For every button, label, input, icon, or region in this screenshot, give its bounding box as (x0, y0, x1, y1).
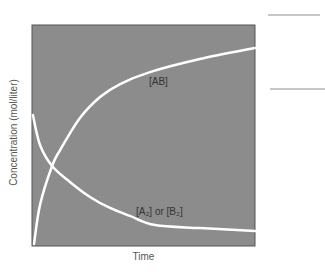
scan-artifact-top (268, 14, 320, 16)
x-axis-label: Time (32, 251, 255, 262)
chart-canvas (0, 0, 325, 272)
y-axis-label: Concentration (mol/liter) (8, 68, 19, 198)
scan-artifact-mid (270, 88, 325, 90)
curve-label-ab: [AB] (149, 76, 168, 87)
curve-label-a2b2: [A₂] or [B₂] (136, 206, 183, 217)
